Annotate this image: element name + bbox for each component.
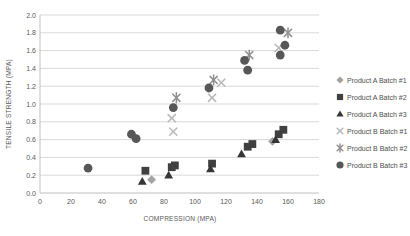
x-tick-label: 140 (251, 198, 263, 205)
circle-marker (240, 56, 249, 65)
series-asterisk (173, 28, 292, 103)
square-marker (171, 162, 179, 170)
y-tick-label: 1.8 (26, 29, 36, 36)
square-marker (248, 140, 256, 148)
series-square (142, 126, 288, 175)
data-point (169, 103, 178, 112)
scatter-chart: 0.00.20.40.60.81.01.21.41.61.82.00204060… (0, 0, 410, 236)
legend-label: Product B Batch #3 (347, 162, 407, 169)
data-point (243, 66, 252, 75)
data-points-layer (84, 26, 292, 185)
data-point (170, 128, 177, 135)
legend-item: Product A Batch #3 (336, 110, 406, 117)
data-point (205, 84, 214, 93)
x-tick-label: 80 (160, 198, 168, 205)
x-marker (208, 94, 215, 101)
x-tick-label: 40 (98, 198, 106, 205)
x-marker (337, 128, 343, 134)
circle-marker (276, 51, 285, 60)
diamond-marker (147, 175, 156, 184)
data-point (218, 79, 225, 86)
y-tick-label: 0.6 (26, 136, 36, 143)
circle-marker (84, 164, 93, 173)
x-tick-label: 100 (189, 198, 201, 205)
circle-marker (336, 161, 343, 168)
square-marker (279, 126, 287, 134)
data-point (171, 162, 179, 170)
data-point (276, 51, 285, 60)
asterisk-marker (210, 75, 217, 85)
data-point (173, 93, 180, 103)
y-tick-label: 0.4 (26, 154, 36, 161)
x-tick-label: 160 (282, 198, 294, 205)
y-tick-label: 1.0 (26, 101, 36, 108)
x-tick-label: 180 (313, 198, 325, 205)
x-tick-label: 0 (38, 198, 42, 205)
data-point (276, 26, 285, 35)
legend: Product A Batch #1Product A Batch #2Prod… (336, 76, 407, 168)
diamond-icon (336, 76, 343, 83)
y-tick-label: 1.6 (26, 47, 36, 54)
legend-item: Product B Batch #1 (337, 128, 407, 135)
y-tick-label: 0.2 (26, 172, 36, 179)
asterisk-marker (337, 144, 343, 152)
asterisk-marker (173, 93, 180, 103)
legend-label: Product B Batch #1 (347, 128, 407, 135)
x-tick-label: 60 (129, 198, 137, 205)
y-axis-title: TENSILE STRENGTH (MPA) (5, 59, 13, 149)
x-axis-title: COMPRESSION (MPA) (144, 215, 217, 223)
data-point (210, 75, 217, 85)
data-point (248, 140, 256, 148)
y-tick-label: 0.8 (26, 118, 36, 125)
triangle-marker (336, 110, 343, 116)
x-marker (168, 115, 175, 122)
square-marker (208, 160, 216, 168)
data-point (208, 160, 216, 168)
square-marker (337, 94, 343, 100)
circle-marker (169, 103, 178, 112)
data-point (240, 56, 249, 65)
data-point (208, 94, 215, 101)
x-tick-label: 20 (67, 198, 75, 205)
circle-marker (281, 41, 290, 50)
diamond-marker (336, 76, 343, 83)
x-icon (337, 128, 343, 134)
legend-item: Product B Batch #2 (337, 144, 407, 152)
x-tick-label: 120 (220, 198, 232, 205)
square-icon (337, 94, 343, 100)
data-point (138, 177, 147, 185)
circle-marker (205, 84, 214, 93)
legend-label: Product A Batch #2 (347, 94, 407, 101)
data-point (142, 167, 150, 175)
data-point (281, 41, 290, 50)
legend-label: Product B Batch #2 (347, 145, 407, 152)
legend-label: Product A Batch #1 (347, 77, 407, 84)
y-tick-label: 2.0 (26, 12, 36, 19)
circle-marker (276, 26, 285, 35)
circle-icon (336, 161, 343, 168)
chart-canvas: 0.00.20.40.60.81.01.21.41.61.82.00204060… (0, 0, 410, 236)
asterisk-icon (337, 144, 343, 152)
triangle-icon (336, 110, 343, 116)
data-point (84, 164, 93, 173)
data-point (132, 134, 141, 143)
y-tick-label: 0.0 (26, 190, 36, 197)
legend-item: Product B Batch #3 (336, 161, 407, 168)
data-point (279, 126, 287, 134)
square-marker (142, 167, 150, 175)
triangle-marker (138, 177, 147, 185)
legend-item: Product A Batch #2 (337, 94, 407, 101)
legend-label: Product A Batch #3 (347, 111, 407, 118)
legend-item: Product A Batch #1 (336, 76, 406, 83)
circle-marker (132, 134, 141, 143)
data-point (147, 175, 156, 184)
y-tick-label: 1.4 (26, 65, 36, 72)
series-circle (84, 26, 290, 173)
y-tick-label: 1.2 (26, 83, 36, 90)
x-marker (170, 128, 177, 135)
x-marker (218, 79, 225, 86)
data-point (168, 115, 175, 122)
circle-marker (243, 66, 252, 75)
